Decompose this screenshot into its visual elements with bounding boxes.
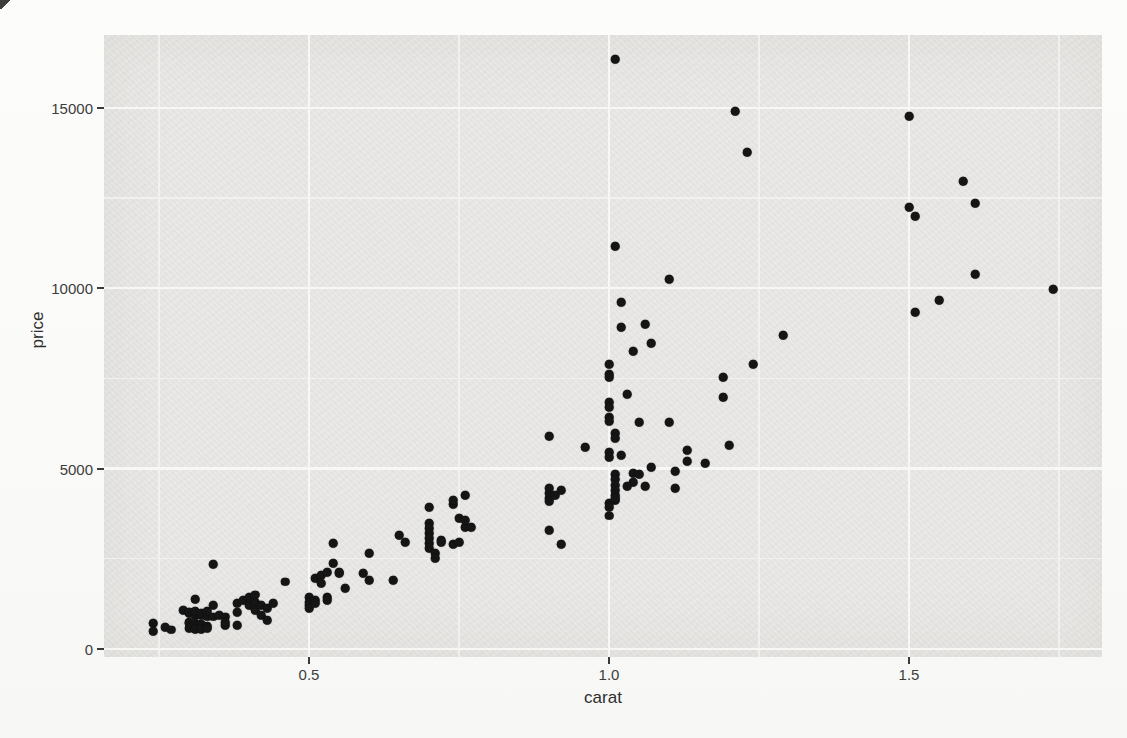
data-point bbox=[335, 569, 344, 578]
x-minor-gridline bbox=[158, 35, 159, 657]
data-point bbox=[749, 360, 758, 369]
data-point bbox=[329, 539, 338, 548]
data-point bbox=[365, 576, 374, 585]
x-major-gridline bbox=[908, 35, 910, 657]
x-major-gridline bbox=[608, 35, 610, 657]
data-point bbox=[467, 523, 476, 532]
data-point bbox=[611, 55, 620, 64]
data-point bbox=[665, 418, 674, 427]
data-point bbox=[605, 503, 614, 512]
data-point bbox=[605, 360, 614, 369]
data-point bbox=[167, 626, 176, 635]
data-point bbox=[911, 308, 920, 317]
data-point bbox=[341, 584, 350, 593]
x-tick-label: 1.5 bbox=[899, 667, 920, 682]
data-point bbox=[149, 627, 158, 636]
x-minor-gridline bbox=[1058, 35, 1059, 657]
y-axis-tick bbox=[97, 287, 104, 289]
data-point bbox=[617, 298, 626, 307]
data-point bbox=[311, 599, 320, 608]
y-tick-label: 0 bbox=[20, 642, 93, 657]
data-point bbox=[317, 579, 326, 588]
data-point bbox=[635, 418, 644, 427]
data-point bbox=[911, 212, 920, 221]
y-tick-label: 5000 bbox=[20, 461, 93, 476]
data-point bbox=[701, 459, 710, 468]
data-point bbox=[905, 203, 914, 212]
data-point bbox=[671, 484, 680, 493]
data-point bbox=[683, 457, 692, 466]
data-point bbox=[605, 373, 614, 382]
y-tick-label: 15000 bbox=[20, 100, 93, 115]
data-point bbox=[623, 482, 632, 491]
x-tick-label: 1.0 bbox=[599, 667, 620, 682]
data-point bbox=[545, 432, 554, 441]
data-point bbox=[557, 486, 566, 495]
plot-panel bbox=[104, 35, 1102, 657]
y-tick-label: 10000 bbox=[20, 281, 93, 296]
data-point bbox=[959, 177, 968, 186]
data-point bbox=[779, 331, 788, 340]
data-point bbox=[719, 373, 728, 382]
data-point bbox=[545, 526, 554, 535]
y-axis-title: price bbox=[28, 312, 48, 349]
data-point bbox=[611, 494, 620, 503]
data-point bbox=[629, 347, 638, 356]
y-minor-gridline bbox=[104, 197, 1102, 198]
data-point bbox=[635, 470, 644, 479]
x-axis-tick bbox=[908, 657, 910, 664]
data-point bbox=[329, 559, 338, 568]
y-major-gridline bbox=[104, 107, 1102, 109]
x-tick-label: 0.5 bbox=[299, 667, 320, 682]
photo-grain-overlay bbox=[104, 35, 1102, 657]
data-point bbox=[269, 599, 278, 608]
data-point bbox=[671, 467, 680, 476]
data-point bbox=[665, 275, 674, 284]
data-point bbox=[581, 443, 590, 452]
y-axis-tick bbox=[97, 648, 104, 650]
y-major-gridline bbox=[104, 648, 1102, 650]
y-minor-gridline bbox=[104, 558, 1102, 559]
data-point bbox=[209, 560, 218, 569]
data-point bbox=[611, 242, 620, 251]
data-point bbox=[971, 199, 980, 208]
data-point bbox=[1049, 285, 1058, 294]
photo-corner-artifact bbox=[0, 0, 16, 9]
data-point bbox=[605, 512, 614, 521]
x-major-gridline bbox=[308, 35, 310, 657]
data-point bbox=[605, 417, 614, 426]
data-point bbox=[389, 576, 398, 585]
data-point bbox=[623, 390, 632, 399]
data-point bbox=[365, 549, 374, 558]
y-major-gridline bbox=[104, 467, 1102, 469]
data-point bbox=[209, 601, 218, 610]
data-point bbox=[455, 538, 464, 547]
data-point bbox=[641, 320, 650, 329]
data-point bbox=[683, 446, 692, 455]
data-point bbox=[251, 591, 260, 600]
data-point bbox=[203, 624, 212, 633]
x-axis-tick bbox=[608, 657, 610, 664]
y-major-gridline bbox=[104, 287, 1102, 289]
data-point bbox=[719, 393, 728, 402]
x-axis-title: carat bbox=[584, 688, 622, 708]
y-axis-tick bbox=[97, 468, 104, 470]
data-point bbox=[323, 568, 332, 577]
data-point bbox=[233, 621, 242, 630]
data-point bbox=[611, 434, 620, 443]
data-point bbox=[731, 107, 740, 116]
data-point bbox=[935, 296, 944, 305]
data-point bbox=[449, 496, 458, 505]
data-point bbox=[263, 616, 272, 625]
x-axis-tick bbox=[308, 657, 310, 664]
x-minor-gridline bbox=[758, 35, 759, 657]
data-point bbox=[233, 608, 242, 617]
data-point bbox=[431, 554, 440, 563]
data-point bbox=[605, 403, 614, 412]
data-point bbox=[557, 540, 566, 549]
data-point bbox=[617, 323, 626, 332]
data-point bbox=[647, 339, 656, 348]
data-point bbox=[743, 148, 752, 157]
data-point bbox=[425, 503, 434, 512]
data-point bbox=[905, 112, 914, 121]
